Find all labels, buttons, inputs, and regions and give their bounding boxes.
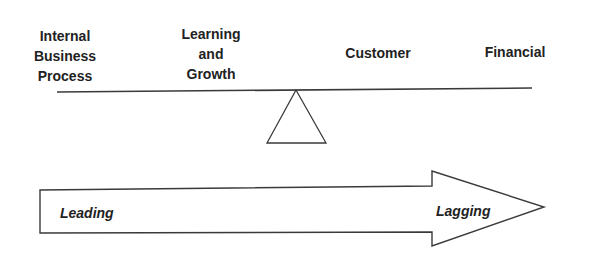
fulcrum-triangle [267,90,326,143]
category-financial: Financial [465,42,565,62]
category-label-line: Financial [465,42,565,62]
category-label-line: Business [15,46,115,66]
category-internal-business-process: Internal Business Process [15,26,115,86]
category-label-line: Process [15,66,115,86]
category-label-line: Internal [15,26,115,46]
category-label-line: Learning [161,24,261,44]
arrow-end-label: Lagging [436,202,490,220]
category-label-line: Customer [328,43,428,63]
category-learning-and-growth: Learning and Growth [161,24,261,84]
arrow-start-label: Leading [60,204,114,222]
category-label-line: Growth [161,64,261,84]
category-customer: Customer [328,43,428,63]
category-label-line: and [161,44,261,64]
